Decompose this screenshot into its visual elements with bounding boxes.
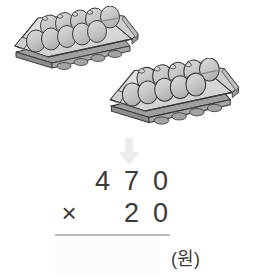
multiplicand-digit-ones: 0 [146,166,175,197]
multiplicand-row: 4 7 0 [0,166,175,196]
answer-blank-field[interactable] [55,238,160,274]
multiplicand-digit-hundreds: 4 [88,166,117,197]
multiplicand-digit-tens: 7 [117,166,146,197]
worksheet-page: 4 7 0 × 2 0 (원) [0,0,257,280]
arrow-down-icon [118,138,140,166]
equation-rule [55,234,170,236]
egg-carton-icon [105,58,245,133]
multiplier-row: 2 0 [0,198,175,228]
egg-carton-illustration [0,0,257,133]
unit-label: (원) [171,244,200,270]
multiplication-equation: 4 7 0 × 2 0 (원) [0,166,257,280]
egg-carton-bottom-right [105,58,245,137]
arrow-down-container [0,136,257,168]
multiplier-digit-ones: 0 [146,198,175,229]
multiplier-digit-tens: 2 [117,198,146,229]
